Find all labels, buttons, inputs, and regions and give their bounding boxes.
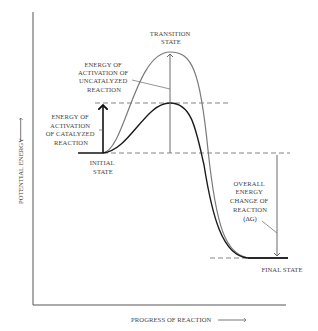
overall-energy-change-label: OVERALL ENERGY CHANGE OF REACTION <box>230 180 270 213</box>
uncatalyzed-activation-label: ENERGY OF ACTIVATION OF UNCATALYZED REAC… <box>78 61 130 93</box>
x-axis-label: PROGRESS OF REACTION <box>131 316 212 323</box>
initial-state-label: INITIAL STATE <box>90 159 116 175</box>
delta-g-symbol: (ΔG) <box>243 215 256 223</box>
x-axis-label-group: PROGRESS OF REACTION <box>131 316 246 323</box>
delta-g-leader-line <box>262 221 277 233</box>
catalyzed-activation-label: ENERGY OF ACTIVATION OF CATALYZED REACTI… <box>46 113 97 146</box>
y-axis-label: POTENTIAL ENERGY <box>17 138 24 204</box>
uncatalyzed-curve <box>103 52 288 258</box>
final-state-label: FINAL STATE <box>261 266 302 273</box>
axes <box>33 12 286 305</box>
transition-state-label: TRANSITION STATE <box>150 30 192 45</box>
energy-diagram: TRANSITION STATE ENERGY OF ACTIVATION OF… <box>0 0 318 331</box>
y-axis-label-group: POTENTIAL ENERGY <box>17 118 24 204</box>
